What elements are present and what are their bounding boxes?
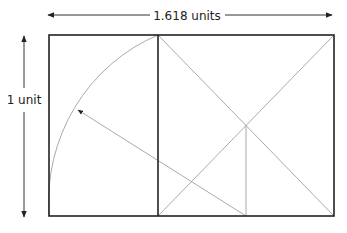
radius-arrow [78,110,246,216]
height-dimension: 1 unit [7,36,42,217]
width-dimension: 1.618 units [48,9,332,23]
outlines [49,35,334,216]
width-label: 1.618 units [153,9,221,23]
outer-golden-rectangle [49,35,334,216]
height-label: 1 unit [7,93,42,107]
golden-rectangle-diagram: 1.618 units 1 unit [0,0,347,233]
construction-lines [48,35,334,216]
